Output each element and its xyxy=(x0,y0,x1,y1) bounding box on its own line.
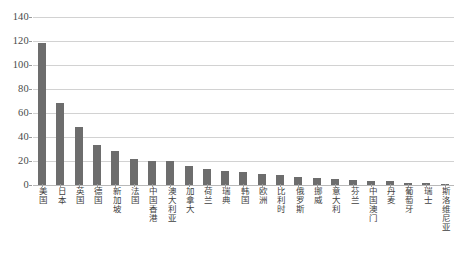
x-axis-tick-label: 荷兰 xyxy=(202,187,211,205)
y-axis-tick-mark xyxy=(29,89,32,90)
x-axis-label-slot: 葡萄牙 xyxy=(399,187,417,258)
x-axis-label-slot: 澳大利亚 xyxy=(161,187,179,258)
bar xyxy=(111,151,119,185)
x-axis-tick-label: 瑞士 xyxy=(422,187,431,205)
x-axis-tick-label: 挪威 xyxy=(312,187,321,205)
bar xyxy=(38,43,46,185)
x-axis-label-slot: 韩国 xyxy=(234,187,252,258)
bar-slot xyxy=(417,17,435,185)
y-axis-tick-label: 120 xyxy=(13,36,29,47)
x-axis-tick-label: 丹麦 xyxy=(385,187,394,205)
bar-slot xyxy=(326,17,344,185)
x-axis-labels: 美国日本英国德国新加坡法国中国香港澳大利亚加拿大荷兰瑞典韩国欧洲比利时俄罗斯挪威… xyxy=(33,187,454,258)
bar xyxy=(56,103,64,185)
bar-slot xyxy=(216,17,234,185)
bar-slot xyxy=(381,17,399,185)
y-axis-tick-label: 80 xyxy=(18,84,29,95)
y-axis-tick-label: 60 xyxy=(18,108,29,119)
x-axis-label-slot: 欧洲 xyxy=(253,187,271,258)
x-axis-tick-label: 斯洛维尼亚 xyxy=(440,187,449,232)
bar-slot xyxy=(234,17,252,185)
x-axis-label-slot: 日本 xyxy=(51,187,69,258)
x-axis-tick-label: 法国 xyxy=(129,187,138,205)
x-axis-tick-label: 瑞典 xyxy=(221,187,230,205)
x-axis-label-slot: 荷兰 xyxy=(198,187,216,258)
bar-slot xyxy=(143,17,161,185)
x-axis-label-slot: 中国香港 xyxy=(143,187,161,258)
y-axis-tick-mark xyxy=(29,65,32,66)
x-axis-label-slot: 瑞典 xyxy=(216,187,234,258)
y-axis-tick-mark xyxy=(29,41,32,42)
y-axis-tick-mark xyxy=(29,137,32,138)
x-axis-label-slot: 美国 xyxy=(33,187,51,258)
x-axis-tick-label: 美国 xyxy=(38,187,47,205)
y-axis-tick-label: 20 xyxy=(18,156,29,167)
x-axis-tick-label: 韩国 xyxy=(239,187,248,205)
x-axis-tick-label: 澳大利亚 xyxy=(166,187,175,223)
bar-slot xyxy=(271,17,289,185)
x-axis-tick-label: 日本 xyxy=(56,187,65,205)
plot-area xyxy=(33,17,454,185)
bar-slot xyxy=(198,17,216,185)
x-axis-label-slot: 芬兰 xyxy=(344,187,362,258)
bar-slot xyxy=(344,17,362,185)
bar-chart: 020406080100120140 美国日本英国德国新加坡法国中国香港澳大利亚… xyxy=(0,0,461,258)
x-axis-label-slot: 挪威 xyxy=(307,187,325,258)
y-axis-tick-mark xyxy=(29,17,32,18)
bar xyxy=(130,159,138,185)
x-axis-tick-label: 意大利 xyxy=(331,187,340,214)
bar-slot xyxy=(161,17,179,185)
bar-slot xyxy=(70,17,88,185)
y-axis-tick-mark xyxy=(29,161,32,162)
bar xyxy=(148,161,156,185)
x-axis-label-slot: 英国 xyxy=(70,187,88,258)
x-axis-label-slot: 比利时 xyxy=(271,187,289,258)
y-axis-tick-label: 140 xyxy=(13,12,29,23)
x-axis-label-slot: 中国澳门 xyxy=(362,187,380,258)
x-axis-tick-label: 加拿大 xyxy=(184,187,193,214)
bar-slot xyxy=(33,17,51,185)
x-axis-tick-label: 欧洲 xyxy=(257,187,266,205)
bar-slot xyxy=(307,17,325,185)
x-axis-tick-label: 中国香港 xyxy=(148,187,157,223)
bar-slot xyxy=(436,17,454,185)
y-axis-tick-mark xyxy=(29,113,32,114)
x-axis-label-slot: 斯洛维尼亚 xyxy=(436,187,454,258)
x-axis-label-slot: 法国 xyxy=(124,187,142,258)
bar-slot xyxy=(399,17,417,185)
bar xyxy=(75,127,83,185)
x-axis-label-slot: 德国 xyxy=(88,187,106,258)
x-axis-label-slot: 俄罗斯 xyxy=(289,187,307,258)
y-axis-tick-label: 100 xyxy=(13,60,29,71)
x-axis-tick-label: 中国澳门 xyxy=(367,187,376,223)
bar-slot xyxy=(51,17,69,185)
bar-slot xyxy=(289,17,307,185)
x-axis-tick-label: 英国 xyxy=(74,187,83,205)
bar xyxy=(166,161,174,185)
x-axis-label-slot: 加拿大 xyxy=(179,187,197,258)
x-axis-tick-label: 芬兰 xyxy=(349,187,358,205)
x-axis-tick-label: 德国 xyxy=(93,187,102,205)
bar-slot xyxy=(253,17,271,185)
bar xyxy=(93,145,101,185)
x-axis-tick-label: 新加坡 xyxy=(111,187,120,214)
bar-slot xyxy=(88,17,106,185)
x-axis-label-slot: 意大利 xyxy=(326,187,344,258)
x-axis-tick-label: 比利时 xyxy=(276,187,285,214)
bar-slot xyxy=(124,17,142,185)
x-axis-label-slot: 新加坡 xyxy=(106,187,124,258)
y-axis-tick-mark xyxy=(29,185,32,186)
bar-slot xyxy=(106,17,124,185)
y-axis-tick-label: 40 xyxy=(18,132,29,143)
x-axis-tick-label: 俄罗斯 xyxy=(294,187,303,214)
x-axis-label-slot: 瑞士 xyxy=(417,187,435,258)
bar-slot xyxy=(179,17,197,185)
bar-slot xyxy=(362,17,380,185)
bar xyxy=(221,171,229,185)
x-axis-label-slot: 丹麦 xyxy=(381,187,399,258)
bar-series xyxy=(33,17,454,185)
bar xyxy=(203,169,211,185)
x-axis-tick-label: 葡萄牙 xyxy=(404,187,413,214)
y-axis-labels: 020406080100120140 xyxy=(0,17,29,185)
bar xyxy=(185,166,193,185)
